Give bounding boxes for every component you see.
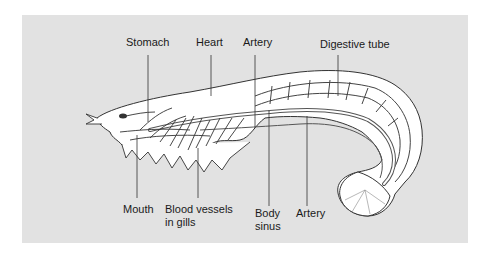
label-blood-vessels-line1: Blood vessels — [165, 203, 233, 215]
label-artery-bottom: Artery — [296, 207, 325, 219]
label-body-sinus-line2: sinus — [255, 220, 281, 232]
label-heart: Heart — [196, 36, 223, 48]
label-blood-vessels-line2: in gills — [165, 216, 196, 228]
label-body-sinus-line1: Body — [255, 207, 280, 219]
label-digestive-tube: Digestive tube — [320, 38, 390, 50]
label-artery-top: Artery — [243, 36, 272, 48]
label-mouth: Mouth — [123, 203, 154, 215]
legs-fringe — [122, 142, 250, 172]
eye — [119, 114, 127, 119]
label-stomach: Stomach — [126, 36, 169, 48]
